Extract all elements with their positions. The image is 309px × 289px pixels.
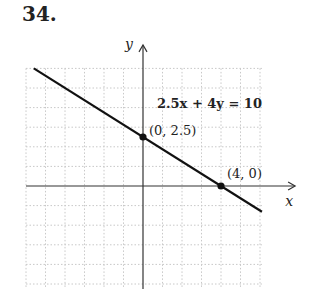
- equation-label: 2.5x + 4y = 10: [157, 96, 262, 111]
- intercept-point: [217, 182, 224, 189]
- x-axis-label: x: [285, 193, 293, 209]
- equation-line: [34, 68, 262, 211]
- intercept-point: [139, 133, 146, 140]
- intercept-label: (0, 2.5): [149, 123, 196, 138]
- y-axis-label: y: [124, 36, 134, 52]
- points: (0, 2.5)(4, 0): [139, 123, 262, 190]
- intercept-label: (4, 0): [227, 166, 262, 181]
- graph: x y (0, 2.5)(4, 0) 2.5x + 4y = 10: [0, 0, 309, 289]
- axes: x y: [26, 36, 295, 289]
